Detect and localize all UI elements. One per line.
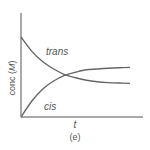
trans-series-label: trans (46, 47, 68, 57)
x-axis-label: t (74, 120, 77, 130)
y-label-unit: M (7, 63, 17, 71)
trans-curve (21, 37, 130, 83)
y-label-prefix: conc ( (7, 71, 17, 96)
cis-series-label: cis (44, 102, 56, 112)
y-axis-label: conc (M) (7, 60, 17, 95)
cis-curve (21, 67, 130, 117)
figure-caption: (e) (70, 132, 81, 142)
y-label-suffix: ) (7, 60, 17, 63)
